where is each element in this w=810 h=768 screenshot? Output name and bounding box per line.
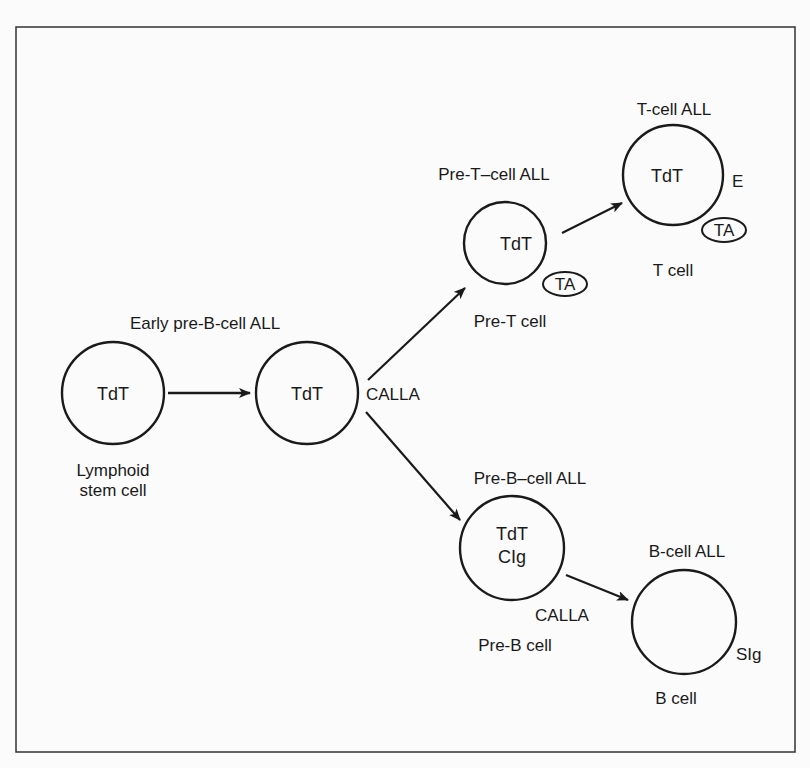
title-early-pre-b-cell-all: Early pre-B-cell ALL — [130, 314, 280, 333]
surface-sig: SIg — [736, 645, 762, 664]
title-pre-b-cell-all: Pre-B–cell ALL — [474, 469, 586, 488]
surface-calla: CALLA — [535, 606, 590, 625]
marker-tdt: TdT — [500, 234, 532, 254]
title-b-cell-all: B-cell ALL — [649, 542, 726, 561]
caption-stem-cell: stem cell — [79, 481, 146, 500]
arrow-pre-t-to-t — [562, 203, 622, 233]
arrow-early-pre-b-to-pre-b — [366, 412, 460, 520]
caption-pre-b-cell: Pre-B cell — [478, 636, 552, 655]
caption-t-cell: T cell — [653, 261, 693, 280]
caption-pre-t-cell: Pre-T cell — [474, 312, 546, 331]
title-pre-t-cell-all: Pre-T–cell ALL — [438, 165, 550, 184]
marker-tdt: TdT — [291, 384, 323, 404]
node-lymphoid-stem-cell: TdT Lymphoid stem cell — [62, 342, 164, 500]
diagram-canvas: TdT Lymphoid stem cell Early pre-B-cell … — [0, 0, 810, 768]
node-pre-t-cell: Pre-T–cell ALL TdT TA Pre-T cell — [438, 165, 587, 331]
marker-cig: CIg — [498, 547, 526, 567]
node-t-cell: T-cell ALL TdT E TA T cell — [623, 100, 746, 280]
node-b-cell: B-cell ALL SIg B cell — [632, 542, 762, 708]
caption-lymphoid: Lymphoid — [76, 461, 149, 480]
surface-e: E — [732, 172, 743, 191]
node-pre-b-cell: Pre-B–cell ALL TdT CIg CALLA Pre-B cell — [460, 469, 590, 655]
title-t-cell-all: T-cell ALL — [637, 100, 712, 119]
arrow-pre-b-to-b — [566, 575, 628, 600]
arrow-early-pre-b-to-pre-t — [368, 288, 465, 380]
marker-tdt: TdT — [496, 524, 528, 544]
marker-tdt: TdT — [97, 384, 129, 404]
caption-b-cell: B cell — [655, 689, 697, 708]
surface-calla: CALLA — [366, 385, 421, 404]
svg-text:TA: TA — [555, 275, 576, 294]
svg-text:TA: TA — [714, 221, 735, 240]
marker-tdt: TdT — [651, 166, 683, 186]
